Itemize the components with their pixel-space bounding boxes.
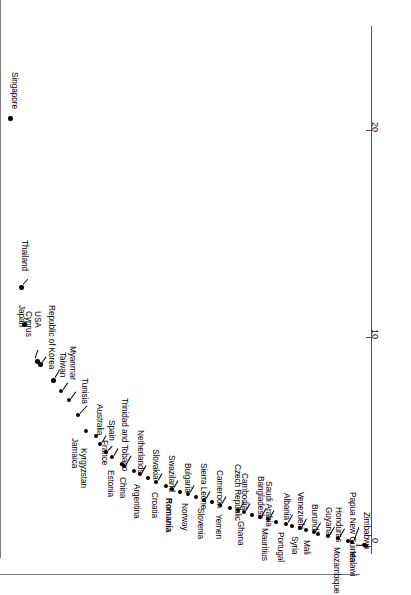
data-point[interactable] bbox=[304, 528, 308, 532]
data-point[interactable] bbox=[51, 378, 56, 383]
data-point-label: Burundi bbox=[310, 504, 320, 532]
data-point-label: Singapore bbox=[10, 72, 20, 109]
data-point[interactable] bbox=[274, 520, 278, 524]
data-point-label: Zimbabwe bbox=[362, 512, 372, 549]
data-point-label: Estonia bbox=[106, 470, 116, 497]
data-point-label: Croatia bbox=[150, 492, 160, 518]
data-point-label: Kyrgyzstan bbox=[79, 448, 89, 488]
label-leader-line bbox=[114, 448, 119, 455]
data-point-label: Ghana bbox=[236, 521, 246, 545]
data-point-label: Slovakia bbox=[151, 449, 161, 480]
data-point[interactable] bbox=[8, 116, 13, 121]
data-point-label: Japan bbox=[17, 305, 27, 327]
data-point[interactable] bbox=[228, 506, 232, 510]
scatter-plot-figure: 20100 SingaporeThailandCyprusJapanUSARep… bbox=[0, 0, 411, 595]
data-point[interactable] bbox=[19, 285, 24, 290]
data-point-label: Guyana bbox=[324, 507, 334, 535]
data-point[interactable] bbox=[67, 398, 71, 402]
data-point-label: Australia bbox=[95, 404, 105, 435]
data-point-label: Sierra Leone bbox=[199, 463, 209, 509]
data-point-label: Yemen bbox=[214, 514, 224, 539]
data-point[interactable] bbox=[242, 510, 246, 514]
data-point-label: Argentina bbox=[132, 484, 142, 519]
panel-border-bottom bbox=[0, 574, 360, 575]
data-point-label: Norway bbox=[180, 503, 190, 531]
data-point[interactable] bbox=[194, 495, 198, 499]
data-point-label: Swaziland bbox=[167, 455, 177, 492]
data-point-label: Syria bbox=[290, 536, 300, 554]
data-point-label: Albania bbox=[282, 493, 292, 520]
data-point-label: Saudi Arabia bbox=[264, 481, 274, 527]
data-point-label: Thailand bbox=[20, 240, 30, 271]
data-point[interactable] bbox=[110, 455, 114, 459]
data-point-label: Mozambique bbox=[332, 547, 342, 594]
data-point-label: Honduras bbox=[334, 507, 344, 542]
data-point[interactable] bbox=[178, 490, 182, 494]
data-point-label: Venezuela bbox=[296, 492, 306, 530]
label-leader-line bbox=[71, 392, 76, 399]
label-leader-line bbox=[80, 406, 87, 414]
data-point-label: Cambodia bbox=[240, 473, 250, 510]
axis-tick-label: 10 bbox=[370, 329, 380, 339]
data-point-label: Taiwan bbox=[58, 352, 68, 377]
data-point[interactable] bbox=[84, 429, 88, 433]
data-point[interactable] bbox=[210, 500, 214, 504]
data-point-label: Netherlands bbox=[136, 430, 146, 474]
label-leader-line bbox=[35, 350, 39, 359]
data-point-label: USA bbox=[33, 311, 43, 328]
data-point-label: Spain bbox=[107, 420, 117, 441]
data-point[interactable] bbox=[98, 442, 102, 446]
data-point-label: Mali bbox=[302, 540, 312, 555]
data-point[interactable] bbox=[316, 532, 320, 536]
data-point[interactable] bbox=[76, 413, 80, 417]
data-point[interactable] bbox=[154, 480, 158, 484]
data-point[interactable] bbox=[284, 522, 288, 526]
label-leader-line bbox=[23, 279, 28, 285]
data-point[interactable] bbox=[38, 362, 43, 367]
data-point-label: China bbox=[118, 477, 128, 498]
data-point[interactable] bbox=[250, 513, 254, 517]
label-leader-line bbox=[63, 383, 68, 390]
data-point-label: Portugal bbox=[276, 532, 286, 562]
data-point-label: Myanmar bbox=[68, 346, 78, 380]
data-point[interactable] bbox=[146, 476, 150, 480]
data-point-label: Republic of Korea bbox=[47, 305, 57, 369]
panel-border-left bbox=[0, 0, 1, 558]
data-point[interactable] bbox=[290, 524, 294, 528]
axis-tick-label: 20 bbox=[370, 122, 380, 132]
data-point-label: Malawi bbox=[348, 551, 358, 576]
data-point-label: Cameroon bbox=[215, 470, 225, 508]
data-point-label: Bulgaria bbox=[183, 463, 193, 493]
data-point-label: Mauritius bbox=[260, 528, 270, 561]
data-point-label: Slovenia bbox=[196, 508, 206, 539]
data-point-label: Romania bbox=[164, 498, 174, 532]
value-axis-line bbox=[371, 26, 372, 554]
data-point-label: Trinidad and Tobago bbox=[120, 398, 130, 471]
data-point[interactable] bbox=[59, 389, 63, 393]
data-point-label: Tunisia bbox=[80, 378, 90, 404]
